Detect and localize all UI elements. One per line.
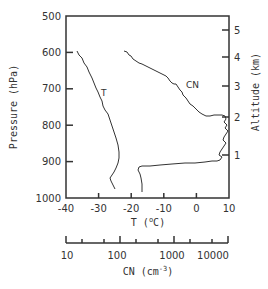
t-tick--30: -30 [90, 203, 106, 214]
cn-tick-labels: 10 100 1000 10000 [61, 250, 229, 261]
altitude-axis-title: Altitude (km) [250, 53, 261, 131]
altitude-ticks [222, 30, 229, 155]
tick-900: 900 [42, 156, 61, 167]
t-tick--10: -10 [156, 203, 172, 214]
cn-axis-title: CN (cm-3) [123, 265, 174, 277]
alt-tick-3: 3 [234, 81, 240, 92]
altitude-tick-labels: 5 4 3 2 1 [234, 25, 240, 161]
cn-curve-label: CN [186, 80, 199, 90]
temperature-tick-labels: -40 -30 -20 -10 0 10 [58, 203, 236, 214]
alt-tick-1: 1 [234, 150, 240, 161]
cn-curve [124, 51, 228, 192]
cn-tick-100: 100 [107, 250, 126, 261]
pressure-ticks [66, 52, 73, 161]
pressure-tick-labels: 500 600 700 800 900 1000 [36, 11, 61, 204]
t-curve-label: T [100, 88, 107, 98]
alt-tick-2: 2 [234, 112, 240, 123]
tick-700: 700 [42, 83, 61, 94]
cn-tick-10000: 10000 [197, 250, 229, 261]
cn-tick-1000: 1000 [159, 250, 184, 261]
cn-tick-10: 10 [61, 250, 74, 261]
t-tick--40: -40 [58, 203, 74, 214]
alt-tick-4: 4 [234, 52, 240, 63]
alt-tick-5: 5 [234, 25, 240, 36]
cn-axis [66, 236, 228, 243]
t-tick--20: -20 [123, 203, 139, 214]
plot-frame [66, 16, 229, 198]
tick-800: 800 [42, 120, 61, 131]
tick-600: 600 [42, 47, 61, 58]
t-tick-10: 10 [223, 203, 236, 214]
temperature-axis-title: T (oC) [131, 216, 165, 228]
temperature-curve [77, 51, 119, 189]
tick-500: 500 [42, 11, 61, 22]
chart: 500 600 700 800 900 1000 Pressure (hPa) … [0, 0, 268, 289]
pressure-axis-title: Pressure (hPa) [8, 65, 19, 149]
t-tick-0: 0 [193, 203, 199, 214]
